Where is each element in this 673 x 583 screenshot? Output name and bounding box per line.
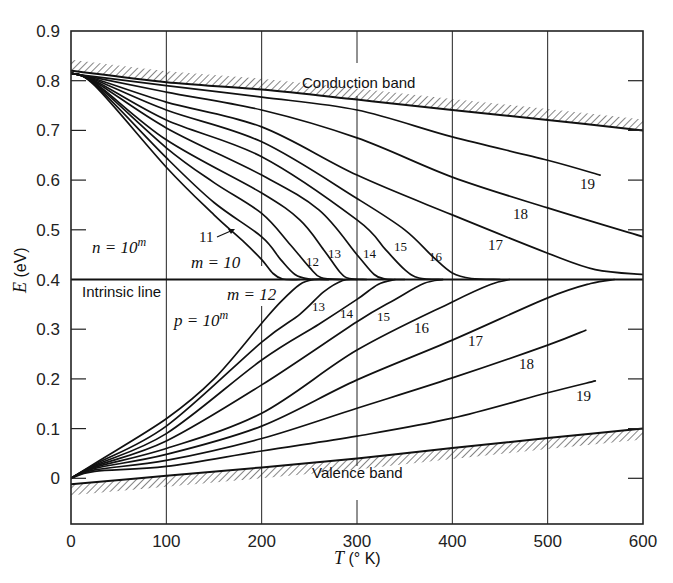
p-family-label: p = 10m [173,308,228,330]
y-tick-label: 0.8 [36,72,60,91]
y-tick-label: 0.7 [36,121,60,140]
curve-label: 12 [306,254,319,269]
y-tick-label: 0.2 [36,370,60,389]
x-tick-label: 100 [152,532,180,551]
energy-temperature-chart: 00.10.20.30.40.50.60.70.80.9010020030040… [0,0,673,583]
curve-label: 18 [513,206,528,222]
curve-label: 18 [519,356,534,372]
valence-band-label: Valence band [312,464,403,481]
curve-label: 17 [468,333,484,349]
x-tick-label: 400 [438,532,466,551]
curve-label: 15 [377,309,390,324]
m10-label: m = 10 [191,253,241,272]
y-axis-title: E (eV) [10,247,30,294]
curve-label: 11 [199,229,213,245]
curve-label: 19 [580,176,595,192]
curve-label: 14 [363,246,377,261]
x-tick-label: 0 [66,532,75,551]
y-tick-label: 0 [51,469,60,488]
intrinsic-line-label: Intrinsic line [82,283,161,300]
x-tick-label: 600 [629,532,657,551]
x-tick-label: 500 [533,532,561,551]
curve-label: 19 [576,388,591,404]
y-tick-label: 0.5 [36,221,60,240]
curve-label: 13 [312,299,325,314]
curve-p-m-12 [71,279,328,478]
y-tick-label: 0.4 [36,271,60,290]
curve-label: 14 [340,306,354,321]
conduction-band-label: Conduction band [302,74,415,91]
curve-label: 15 [394,239,407,254]
y-tick-label: 0.1 [36,420,60,439]
curve-label: 17 [488,237,504,253]
x-tick-label: 200 [247,532,275,551]
y-tick-label: 0.3 [36,320,60,339]
y-tick-label: 0.9 [36,22,60,41]
x-axis-title: T (° K) [334,548,381,568]
n-family-label: n = 10m [92,235,146,257]
curve-label: 16 [414,320,430,336]
curve-label: 16 [429,249,443,264]
x-tick-label: 300 [343,532,371,551]
y-tick-label: 0.6 [36,171,60,190]
curve-label: 13 [328,246,341,261]
gridlines [71,31,643,524]
m12-label: m = 12 [227,285,277,304]
